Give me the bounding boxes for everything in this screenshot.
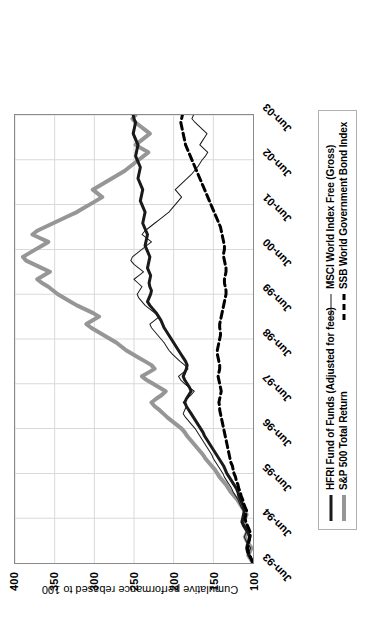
legend-item[interactable]: S&P 500 Total Return (337, 320, 350, 521)
legend-swatch-icon (326, 294, 336, 320)
x-tick-label: Jun-97 (260, 372, 300, 412)
plot-area (14, 114, 254, 564)
chart-legend: HFRI Fund of Funds (Adjusted for fees)MS… (318, 110, 357, 530)
x-tick-label: Jun-99 (260, 282, 300, 322)
x-tick-label: Jun-94 (260, 507, 300, 547)
data-series-layer (15, 115, 253, 563)
y-axis-title: Cumulative performance rebased to 100 (20, 584, 260, 596)
legend-item[interactable]: SSB World Government Bond Index (337, 119, 350, 320)
legend-label: S&P 500 Total Return (338, 391, 349, 490)
legend-item[interactable]: MSCI World Index Free (Gross) (324, 119, 337, 320)
x-tick-label: Jun-01 (260, 192, 300, 232)
y-axis: 100150200250300350400 (14, 566, 254, 626)
x-tick-label: Jun-98 (260, 327, 300, 367)
legend-item[interactable]: HFRI Fund of Funds (Adjusted for fees) (324, 320, 337, 521)
performance-line-chart: 100150200250300350400 Cumulative perform… (0, 0, 376, 626)
x-tick-label: Jun-93 (260, 552, 300, 592)
series-line (181, 115, 253, 563)
legend-swatch-icon (339, 495, 349, 521)
x-tick-label: Jun-96 (260, 417, 300, 457)
y-tick-label: 400 (8, 572, 20, 591)
x-tick-label: Jun-02 (260, 147, 300, 187)
legend-swatch-icon (326, 495, 336, 521)
legend-label: HFRI Fund of Funds (Adjusted for fees) (325, 307, 336, 490)
x-tick-label: Jun-95 (260, 462, 300, 502)
chart-rotation-wrapper: 100150200250300350400 Cumulative perform… (0, 0, 376, 626)
legend-label: SSB World Government Bond Index (338, 122, 349, 289)
legend-label: MSCI World Index Free (Gross) (325, 145, 336, 289)
legend-swatch-icon (339, 294, 349, 320)
x-tick-label: Jun-03 (260, 102, 300, 142)
x-tick-label: Jun-00 (260, 237, 300, 277)
